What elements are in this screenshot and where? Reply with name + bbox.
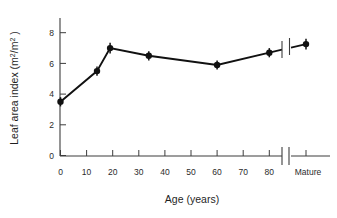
x-tick-label-30: 30 [134,167,144,177]
x-tick-label-40: 40 [160,167,170,177]
y-axis-title-tail: ) [8,31,20,37]
y-tick-label-6: 6 [49,59,54,69]
y-tick-group [60,33,66,156]
data-point-age-14 [94,68,100,74]
x-tick-label-0: 0 [58,167,63,177]
data-point-age-80 [266,50,272,56]
x-tick-label-10: 10 [82,167,92,177]
data-series-line [61,48,270,102]
y-tick-label-8: 8 [49,28,54,38]
y-tick-label-0: 0 [49,151,54,161]
x-tick-label-70: 70 [238,167,248,177]
y-axis-title: Leaf area index (m2/m2 ) [8,31,20,144]
data-point-mature [303,41,309,47]
x-tick-label-50: 50 [186,167,196,177]
x-tick-group [61,150,307,156]
figure-container: 0 2 4 6 8 0 10 20 30 40 50 60 [0,0,337,218]
x-axis-title: Age (years) [165,193,219,205]
x-tick-label-group: 0 10 20 30 40 50 60 70 80 Mature [58,167,321,177]
x-tick-label-mature: Mature [295,167,322,177]
y-tick-label-4: 4 [49,89,54,99]
data-point-age-34 [146,53,152,59]
y-tick-label-2: 2 [49,120,54,130]
y-axis-title-main: Leaf area index (m [8,57,20,145]
data-marker-group [57,41,309,105]
data-point-age-60 [214,62,220,68]
x-tick-label-60: 60 [212,167,222,177]
x-tick-label-20: 20 [108,167,118,177]
y-tick-label-group: 0 2 4 6 8 [49,28,54,161]
x-tick-label-80: 80 [265,167,275,177]
data-point-age-0 [57,99,63,105]
data-point-age-19 [107,45,113,51]
leaf-area-index-line-chart: 0 2 4 6 8 0 10 20 30 40 50 60 [0,0,337,218]
y-axis-title-mid: /m [8,41,20,53]
